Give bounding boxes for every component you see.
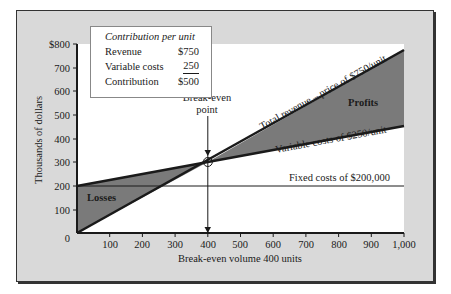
svg-text:600: 600	[265, 239, 281, 250]
svg-text:$800: $800	[49, 39, 70, 50]
svg-text:400: 400	[54, 134, 70, 145]
svg-text:700: 700	[298, 239, 314, 250]
y-tick-labels: $800 700 600 500 400 300 200 100 0	[49, 39, 70, 244]
svg-text:700: 700	[54, 63, 70, 74]
svg-text:200: 200	[54, 181, 70, 192]
svg-text:600: 600	[54, 86, 70, 97]
svg-text:200: 200	[134, 239, 150, 250]
profits-label: Profits	[348, 97, 378, 108]
contribution-legend: Contribution per unit Revenue $750 Varia…	[90, 26, 212, 98]
svg-text:1,000: 1,000	[392, 239, 416, 250]
svg-text:900: 900	[363, 239, 379, 250]
svg-text:400: 400	[200, 239, 216, 250]
svg-text:100: 100	[54, 205, 70, 216]
break-even-label-2: point	[196, 104, 218, 115]
svg-text:500: 500	[232, 239, 248, 250]
x-tick-labels: 100 200 300 400 500 600 700 800 900 1,00…	[102, 239, 416, 250]
losses-label: Losses	[87, 192, 116, 203]
svg-text:500: 500	[54, 110, 70, 121]
legend-row: Variable costs 250	[91, 59, 211, 74]
svg-text:0: 0	[65, 233, 70, 244]
legend-row: Contribution $500	[91, 74, 211, 89]
break-even-chart: $800 700 600 500 400 300 200 100 0 100 2…	[0, 0, 451, 294]
svg-text:100: 100	[102, 239, 118, 250]
legend-row: Revenue $750	[91, 44, 211, 59]
fixed-cost-label: Fixed costs of $200,000	[289, 172, 390, 183]
svg-text:300: 300	[54, 157, 70, 168]
y-axis-title: Thousands of dollars	[33, 96, 44, 184]
svg-text:300: 300	[167, 239, 183, 250]
legend-title: Contribution per unit	[91, 29, 211, 44]
svg-text:800: 800	[331, 239, 347, 250]
x-axis-title: Break-even volume 400 units	[178, 253, 302, 264]
